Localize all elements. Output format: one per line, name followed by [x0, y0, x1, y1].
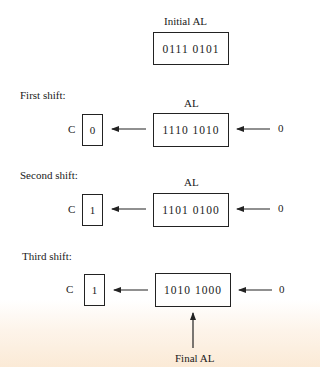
- arrows: [0, 0, 302, 367]
